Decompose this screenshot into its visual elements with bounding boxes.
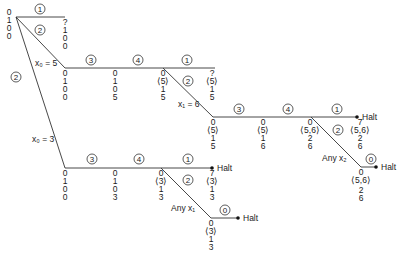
step-circle: 1 bbox=[332, 104, 342, 114]
svg-text:6: 6 bbox=[261, 141, 266, 151]
svg-text:6: 6 bbox=[359, 193, 364, 203]
svg-text:0: 0 bbox=[63, 92, 68, 102]
svg-text:0: 0 bbox=[223, 206, 228, 215]
halt-dot bbox=[236, 216, 240, 220]
svg-text:3: 3 bbox=[159, 192, 164, 202]
svg-text:3: 3 bbox=[209, 242, 214, 252]
svg-text:0: 0 bbox=[7, 31, 12, 41]
step-circle: 2 bbox=[35, 25, 45, 35]
step-circle: 4 bbox=[134, 154, 144, 164]
state-top-q: ? 1 0 0 bbox=[63, 17, 68, 51]
step-circle: 2 bbox=[333, 125, 343, 135]
svg-text:2: 2 bbox=[38, 26, 43, 35]
svg-text:1: 1 bbox=[38, 5, 43, 14]
branch-label-x0-3: x₀ = 3 bbox=[32, 134, 54, 144]
step-circle: 2 bbox=[11, 72, 21, 82]
svg-text:1: 1 bbox=[185, 56, 190, 65]
svg-text:5: 5 bbox=[113, 92, 118, 102]
halt-label: Halt bbox=[381, 162, 397, 172]
state-root: 0 1 0 0 bbox=[7, 7, 12, 41]
halt-label: Halt bbox=[243, 213, 259, 223]
halt-dot bbox=[374, 165, 378, 169]
state-c1: 0 1 0 0 bbox=[63, 168, 68, 202]
halt-label: Halt bbox=[362, 112, 378, 122]
step-circle: 4 bbox=[133, 55, 143, 65]
svg-text:2: 2 bbox=[14, 73, 19, 82]
step-circle: 0 bbox=[220, 205, 230, 215]
state-a3: 0 ⟨5⟩ 1 5 bbox=[157, 68, 170, 102]
state-c2: 0 1 0 3 bbox=[113, 168, 118, 202]
branch-label-x0-5: x₀ = 5 bbox=[35, 58, 57, 68]
svg-text:1: 1 bbox=[335, 105, 340, 114]
svg-text:4: 4 bbox=[136, 56, 141, 65]
step-circle: 3 bbox=[87, 154, 97, 164]
step-circle: 1 bbox=[35, 4, 45, 14]
branch-label-any-x2: Any x₂ bbox=[322, 153, 347, 163]
computation-tree-diagram: Halt Halt Halt Halt 1 2 2 3 4 1 2 3 4 1 … bbox=[0, 0, 409, 258]
state-b3: 0 ⟨5,6⟩ 2 6 bbox=[300, 117, 320, 151]
svg-text:2: 2 bbox=[336, 126, 341, 135]
step-circle: 3 bbox=[86, 55, 96, 65]
svg-text:6: 6 bbox=[358, 141, 363, 151]
svg-text:0: 0 bbox=[369, 155, 374, 164]
state-a1: 0 1 0 0 bbox=[63, 68, 68, 102]
svg-text:2: 2 bbox=[186, 176, 191, 185]
svg-text:5: 5 bbox=[161, 92, 166, 102]
state-c5: 0 ⟨3⟩ 1 3 bbox=[205, 218, 218, 252]
svg-text:0: 0 bbox=[63, 192, 68, 202]
branch-label-any-x1: Any x₁ bbox=[171, 203, 195, 213]
state-b4: 7 ⟨5,6⟩ 2 6 bbox=[350, 117, 370, 151]
svg-text:4: 4 bbox=[286, 105, 291, 114]
step-circle: 3 bbox=[234, 104, 244, 114]
state-c4: 7 ⟨3⟩ 1 3 bbox=[206, 168, 219, 202]
svg-text:⟨5,6⟩: ⟨5,6⟩ bbox=[351, 175, 371, 185]
svg-text:3: 3 bbox=[89, 56, 94, 65]
svg-text:0: 0 bbox=[63, 41, 68, 51]
state-b1: 0 ⟨5⟩ 1 5 bbox=[207, 117, 220, 151]
svg-text:6: 6 bbox=[308, 141, 313, 151]
step-circle: 1 bbox=[183, 154, 193, 164]
halt-label: Halt bbox=[217, 163, 233, 173]
state-b2: 0 ⟨5⟩ 1 6 bbox=[257, 117, 270, 151]
svg-text:4: 4 bbox=[137, 155, 142, 164]
state-a4: ? ⟨5⟩ 1 5 bbox=[206, 68, 219, 102]
step-circle: 4 bbox=[283, 104, 293, 114]
svg-text:2: 2 bbox=[186, 77, 191, 86]
state-a2: 0 1 0 5 bbox=[113, 68, 118, 102]
state-b5: 0 ⟨5,6⟩ 2 6 bbox=[351, 167, 371, 203]
step-circle: 2 bbox=[183, 175, 193, 185]
svg-text:5: 5 bbox=[211, 141, 216, 151]
svg-text:3: 3 bbox=[113, 192, 118, 202]
step-circle: 1 bbox=[182, 55, 192, 65]
svg-text:3: 3 bbox=[90, 155, 95, 164]
state-c3: 0 ⟨3⟩ 1 3 bbox=[155, 168, 168, 202]
edge-root-x0-3 bbox=[16, 17, 65, 168]
step-circle: 0 bbox=[366, 154, 376, 164]
step-circle: 2 bbox=[183, 76, 193, 86]
svg-text:5: 5 bbox=[210, 92, 215, 102]
branch-label-x1-6: x₁ = 6 bbox=[178, 99, 200, 109]
svg-text:3: 3 bbox=[237, 105, 242, 114]
svg-text:1: 1 bbox=[186, 155, 191, 164]
svg-text:3: 3 bbox=[210, 192, 215, 202]
